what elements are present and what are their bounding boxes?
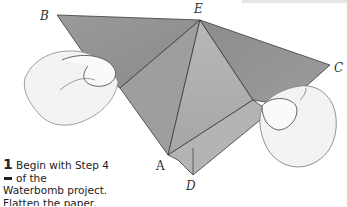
point-label-c: C — [334, 61, 343, 75]
point-label-a: A — [155, 159, 165, 173]
step-text-line1: Begin with Step 4 — [16, 159, 109, 171]
right-hand — [260, 86, 336, 167]
point-label-e: E — [193, 2, 203, 16]
left-hand — [24, 51, 118, 125]
step-number-underline — [4, 177, 12, 180]
point-label-b: B — [39, 9, 49, 23]
step-caption: 1 Begin with Step 4 of the Waterbomb pro… — [3, 158, 153, 206]
step-text-line2: of the — [16, 172, 47, 184]
step-text-line3: Waterbomb project. — [3, 184, 153, 197]
step-text-line4: Flatten the paper. — [3, 197, 153, 207]
point-label-d: D — [185, 179, 196, 193]
step-number: 1 — [3, 156, 13, 172]
